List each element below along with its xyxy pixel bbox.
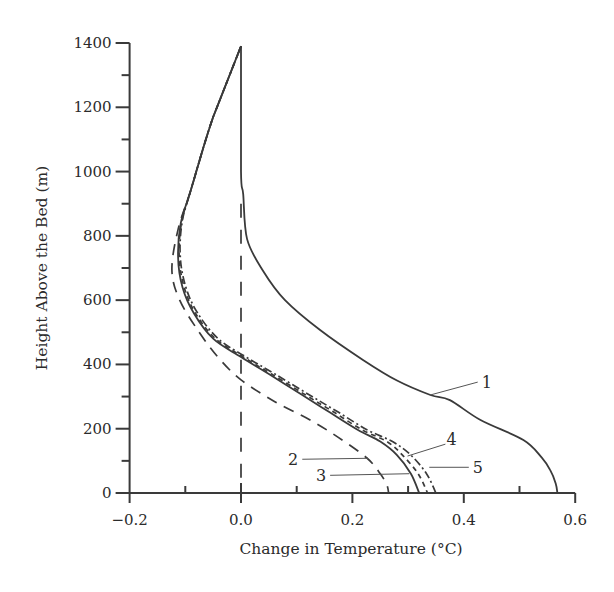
leader-line-1 [430, 382, 477, 395]
y-tick-label: 1200 [73, 98, 111, 116]
curve-label-2: 2 [288, 450, 298, 469]
x-tick-label: 0.4 [452, 511, 476, 529]
x-tick-label: −0.2 [111, 511, 147, 529]
curve-label-3: 3 [316, 466, 326, 485]
y-tick-label: 0 [102, 484, 112, 502]
y-tick-label: 1000 [73, 163, 111, 181]
curve-label-5: 5 [473, 458, 483, 477]
curve-annotations: 12345 [288, 373, 492, 485]
curve-label-4: 4 [446, 430, 456, 449]
x-tick-label: 0.6 [563, 511, 587, 529]
plot-curves [172, 46, 558, 493]
y-tick-label: 800 [83, 227, 112, 245]
series-4-curve [179, 46, 428, 493]
x-axis-title: Change in Temperature (°C) [239, 540, 462, 558]
leader-line-3 [330, 474, 409, 476]
chart: −0.20.00.20.40.6020040060080010001200140… [0, 0, 614, 592]
y-axis-title: Height Above the Bed (m) [33, 166, 51, 371]
y-tick-label: 1400 [73, 34, 111, 52]
series-5-curve [180, 46, 436, 493]
series-1-curve [241, 46, 557, 493]
y-tick-label: 400 [83, 355, 112, 373]
x-tick-label: 0.0 [229, 511, 253, 529]
leader-line-4 [408, 444, 446, 456]
x-tick-label: 0.2 [340, 511, 364, 529]
axes: −0.20.00.20.40.6020040060080010001200140… [73, 34, 587, 529]
curve-label-1: 1 [482, 373, 492, 392]
y-tick-label: 200 [83, 420, 112, 438]
leader-line-2 [302, 458, 368, 459]
y-tick-label: 600 [83, 291, 112, 309]
